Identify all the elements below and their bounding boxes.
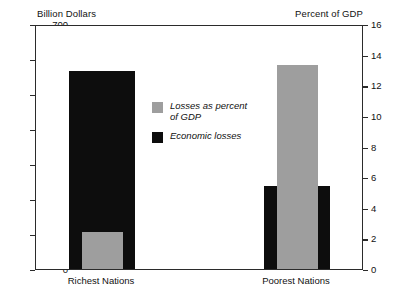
left-axis-title: Billion Dollars [37, 8, 96, 19]
tick-mark-right-8 [363, 148, 368, 149]
tick-mark-right-10 [363, 117, 368, 118]
chart-legend: Losses as percent of GDP Economic losses [152, 101, 247, 152]
tick-label-right-2: 2 [371, 234, 376, 244]
legend-swatch-gray-icon [152, 102, 163, 113]
bar-richest-losses-percent-gdp [82, 232, 123, 270]
tick-mark-right-12 [363, 86, 368, 87]
chart-container: Billion Dollars Percent of GDP Source: S… [0, 0, 398, 296]
category-label-richest-nations: Richest Nations [35, 275, 167, 286]
tick-label-right-0: 0 [371, 265, 376, 275]
tick-label-right-12: 12 [371, 81, 382, 91]
legend-item-losses-percent-gdp: Losses as percent of GDP [152, 101, 247, 122]
legend-label-economic-losses: Economic losses [170, 131, 241, 142]
tick-mark-right-14 [363, 56, 368, 57]
tick-mark-left-0 [30, 270, 35, 271]
bar-poorest-losses-percent-gdp [277, 65, 318, 269]
tick-mark-right-0 [363, 270, 368, 271]
tick-label-right-16: 16 [371, 20, 382, 30]
tick-mark-right-4 [363, 209, 368, 210]
tick-label-right-4: 4 [371, 204, 376, 214]
tick-mark-right-6 [363, 178, 368, 179]
right-axis-title: Percent of GDP [295, 8, 363, 19]
tick-label-right-8: 8 [371, 143, 376, 153]
legend-item-economic-losses: Economic losses [152, 131, 247, 143]
tick-mark-right-16 [363, 25, 368, 26]
category-label-poorest-nations: Poorest Nations [230, 275, 362, 286]
tick-label-right-10: 10 [371, 112, 382, 122]
legend-swatch-black-icon [152, 132, 163, 143]
tick-mark-right-2 [363, 239, 368, 240]
legend-label-losses-percent-gdp: Losses as percent of GDP [170, 101, 247, 122]
tick-label-right-14: 14 [371, 51, 382, 61]
tick-label-right-6: 6 [371, 173, 376, 183]
